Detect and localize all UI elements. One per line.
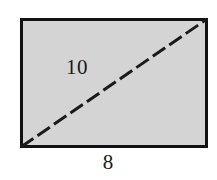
diagonal-length-label: 10 <box>66 57 88 78</box>
base-length-label: 8 <box>94 152 122 173</box>
geometry-figure: 10 8 <box>0 0 217 180</box>
